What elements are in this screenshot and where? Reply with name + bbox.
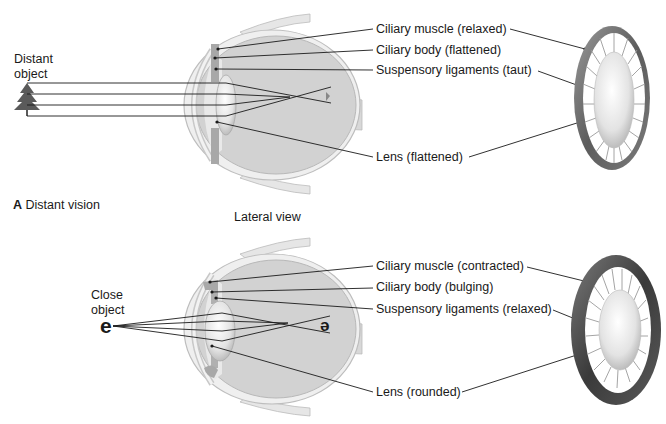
- label-lens-rounded: Lens (rounded): [376, 385, 461, 399]
- tree-icon: [14, 83, 40, 116]
- eye-distant-vision: [184, 14, 362, 194]
- close-object-label-line1: Close: [91, 288, 124, 303]
- retina-image-glyph: ə: [320, 316, 329, 336]
- label-ciliary-muscle-relaxed: Ciliary muscle (relaxed): [376, 22, 507, 36]
- distant-object-label-line1: Distant: [14, 52, 53, 67]
- distant-object-label: Distant object: [14, 52, 53, 82]
- label-ciliary-body-flattened: Ciliary body (flattened): [376, 43, 501, 57]
- lens-ring-contracted: [571, 255, 661, 405]
- label-ciliary-body-bulging: Ciliary body (bulging): [376, 280, 493, 294]
- diagram-canvas: [0, 0, 666, 424]
- panel-letter: A: [13, 198, 22, 212]
- label-suspensory-ligaments-taut: Suspensory ligaments (taut): [376, 63, 532, 77]
- lateral-view-label: Lateral view: [234, 210, 301, 224]
- close-object-glyph: e: [100, 316, 112, 336]
- panel-title: Distant vision: [26, 198, 100, 212]
- eye-close-vision: [184, 238, 362, 416]
- label-lens-flattened: Lens (flattened): [376, 150, 463, 164]
- label-ciliary-muscle-contracted: Ciliary muscle (contracted): [376, 259, 524, 273]
- label-suspensory-ligaments-relaxed: Suspensory ligaments (relaxed): [376, 302, 552, 316]
- panel-a-title: A Distant vision: [13, 198, 100, 212]
- lens-ring-relaxed: [574, 26, 650, 170]
- distant-object-label-line2: object: [14, 67, 53, 82]
